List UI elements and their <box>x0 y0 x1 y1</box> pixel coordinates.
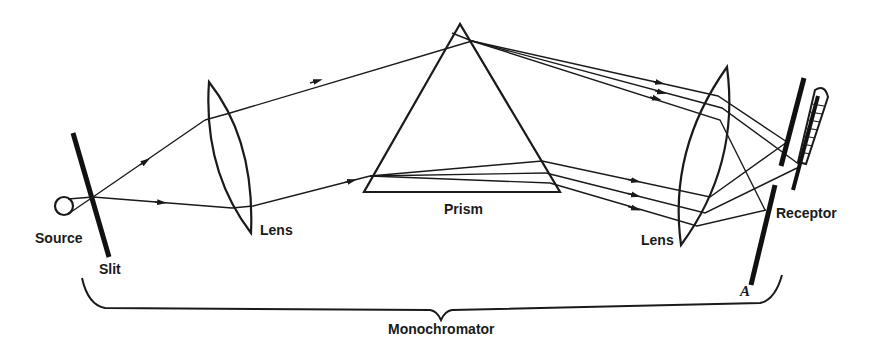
label-prism: Prism <box>444 201 483 217</box>
rays-inside-prism <box>370 33 550 183</box>
label-lens-left: Lens <box>260 222 293 238</box>
label-receptor: Receptor <box>776 205 837 221</box>
monochromator-brace <box>82 275 782 320</box>
prism <box>364 24 560 192</box>
diagram-canvas: Source Slit Lens Prism Lens Receptor A M… <box>0 0 872 348</box>
label-monochromator: Monochromator <box>388 321 495 337</box>
mirror-a <box>751 185 775 285</box>
label-slit: Slit <box>99 261 121 277</box>
label-mirror-a: A <box>739 283 750 299</box>
label-source: Source <box>35 230 83 246</box>
label-lens-right: Lens <box>641 232 674 248</box>
rays-lower-bundle <box>542 142 797 226</box>
monochromator-diagram: Source Slit Lens Prism Lens Receptor A M… <box>0 0 872 348</box>
lens-left <box>208 82 251 233</box>
rays-lens-to-prism <box>205 41 472 208</box>
lens-right <box>679 67 730 245</box>
